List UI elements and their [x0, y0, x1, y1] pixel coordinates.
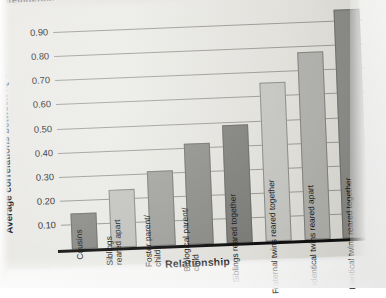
bar: Foster parent/ child: [146, 171, 175, 247]
bar: Identical twins reared apart: [297, 51, 331, 240]
page-left-fold: [0, 0, 10, 288]
y-axis-tick-label: 0.00: [39, 244, 57, 255]
page-bottom-margin: [0, 258, 386, 288]
y-axis-tick-label: 0.90: [30, 27, 48, 38]
y-axis-tick-label: 0.50: [34, 124, 52, 135]
y-axis-tick-label: 0.10: [38, 220, 56, 231]
y-axis-tick-label: 0.80: [31, 51, 49, 62]
bar: Fraternal twins reared together: [259, 82, 291, 242]
y-axis-tick-label: 0.60: [33, 100, 51, 111]
bar: Siblings reared together: [222, 124, 253, 243]
plot-area: 0.900.800.700.600.500.400.300.200.100.00…: [52, 0, 372, 253]
bar: Cousins: [70, 212, 97, 249]
bar-series: CousinsSiblings reared apartFoster paren…: [52, 0, 371, 250]
bar-category-label: Cousins: [75, 229, 86, 260]
y-axis-tick-label: 0.20: [37, 196, 55, 207]
bar: Siblings reared apart: [108, 189, 136, 248]
bar: Biological parent/ child: [184, 143, 214, 245]
y-axis-tick-label: 0.30: [36, 172, 54, 183]
bar-chart: Average correlations between IQ scores 0…: [0, 0, 386, 295]
y-axis-tick-label: 0.70: [32, 75, 50, 86]
page-right-margin: [350, 0, 386, 288]
y-axis-tick-label: 0.40: [35, 148, 53, 159]
